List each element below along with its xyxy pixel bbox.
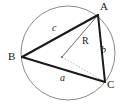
geometry-figure: A B C c b a R bbox=[0, 0, 127, 110]
side-label-a: a bbox=[60, 73, 65, 83]
figure-canvas bbox=[0, 0, 127, 110]
side-label-b: b bbox=[101, 45, 106, 55]
vertex-label-a: A bbox=[100, 1, 108, 12]
vertex-label-b: B bbox=[8, 51, 15, 62]
radius-line-oc bbox=[62, 57, 105, 82]
side-label-c: c bbox=[52, 23, 56, 33]
vertex-label-c: C bbox=[107, 79, 114, 90]
circumcenter-point bbox=[61, 56, 63, 58]
radius-label-r: R bbox=[82, 36, 89, 46]
radius-line-r bbox=[62, 15, 98, 57]
